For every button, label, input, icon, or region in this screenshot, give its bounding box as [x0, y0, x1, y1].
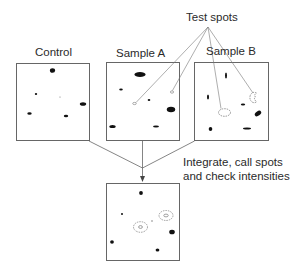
- integrate-step-line2: and check intensities: [183, 169, 290, 183]
- control-spots: [27, 68, 86, 117]
- arrow-head-icon: [140, 176, 145, 182]
- sample-a-label: Sample A: [116, 47, 165, 60]
- result-test-spots: [134, 211, 174, 233]
- control-panel: [17, 64, 90, 141]
- sample-b-spots: [207, 73, 262, 131]
- test-spots-label: Test spots: [186, 11, 238, 24]
- control-label: Control: [35, 46, 72, 59]
- sample-a-spots: [109, 72, 175, 128]
- sample-b-label: Sample B: [206, 45, 256, 58]
- integrate-step-line1: Integrate, call spots: [183, 155, 283, 169]
- diagram-canvas: [0, 0, 303, 276]
- sample-a-test-spots: [133, 91, 174, 105]
- sample-b-test-spots: [219, 92, 257, 116]
- merge-arrows: [89, 141, 195, 180]
- sample-b-panel: [195, 63, 269, 141]
- result-spots: [110, 191, 175, 251]
